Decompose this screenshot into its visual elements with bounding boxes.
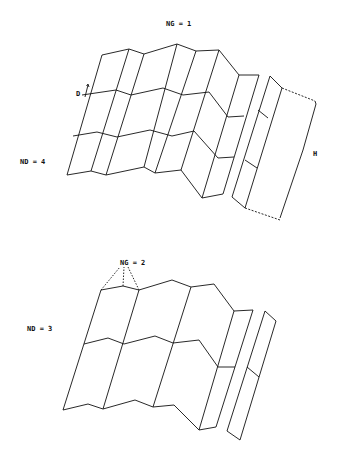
h-label: H [313, 150, 317, 158]
top-figure [67, 44, 316, 220]
d-label: D [76, 90, 80, 98]
bottom-figure [63, 267, 276, 440]
ng-label-bottom: NG = 2 [120, 259, 145, 267]
folded-plate-diagram [0, 0, 339, 458]
ng-label-top: NG = 1 [166, 20, 191, 28]
nd-label-bottom: ND = 3 [27, 325, 52, 333]
nd-label-top: ND = 4 [20, 158, 45, 166]
